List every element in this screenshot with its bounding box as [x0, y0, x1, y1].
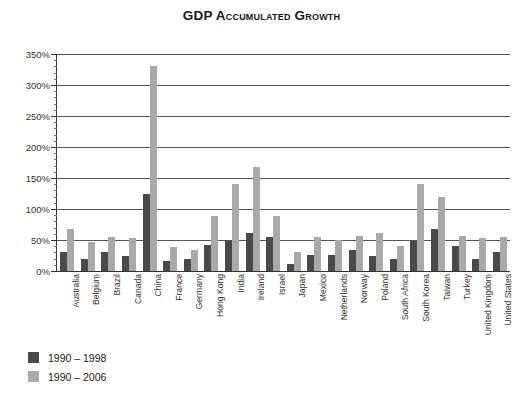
y-axis-major-tick: [51, 271, 57, 272]
y-axis-tick-label: 150%: [26, 173, 50, 184]
x-axis-category-label: Canada: [133, 274, 143, 304]
bar: [356, 236, 363, 271]
bar: [287, 264, 294, 271]
gridline: [57, 116, 510, 117]
bar: [328, 255, 335, 271]
y-axis-minor-tick: [54, 141, 57, 142]
bar: [184, 259, 191, 271]
bar: [307, 255, 314, 271]
bar: [67, 229, 74, 271]
x-axis-category-labels: AustraliaBelgiumBrazilCanadaChinaFranceG…: [57, 274, 510, 344]
x-axis-category-label: Brazil: [112, 274, 122, 296]
x-axis-category-label: United States: [503, 274, 513, 326]
bar: [101, 252, 108, 271]
bar: [129, 238, 136, 271]
legend-item: 1990 – 2006: [28, 367, 106, 386]
bar: [204, 245, 211, 271]
y-axis-minor-tick: [54, 215, 57, 216]
y-axis-major-tick: [51, 178, 57, 179]
bar: [493, 252, 500, 271]
x-axis-category-label: South Africa: [400, 274, 410, 320]
legend-item: 1990 – 1998: [28, 348, 106, 367]
bar: [431, 229, 438, 271]
y-axis-minor-tick: [54, 259, 57, 260]
chart-figure: GDP Accumulated Growth 0%50%100%150%200%…: [0, 0, 523, 406]
y-axis-minor-tick: [54, 122, 57, 123]
bar: [232, 184, 239, 271]
y-axis-minor-tick: [54, 234, 57, 235]
bar: [335, 240, 342, 271]
y-axis-minor-tick: [54, 104, 57, 105]
y-axis-tick-label: 350%: [26, 49, 50, 60]
bar: [143, 194, 150, 272]
bar: [314, 237, 321, 271]
y-axis-minor-tick: [54, 197, 57, 198]
x-axis-line: [56, 271, 510, 272]
bar: [163, 261, 170, 271]
bar: [349, 250, 356, 271]
bar: [88, 242, 95, 271]
gridline: [57, 54, 510, 55]
y-axis-major-tick: [51, 147, 57, 148]
y-axis-minor-tick: [54, 252, 57, 253]
x-axis-category-label: Australia: [71, 274, 81, 307]
bar: [376, 233, 383, 271]
y-axis-minor-tick: [54, 265, 57, 266]
bar: [472, 259, 479, 271]
x-axis-category-label: Turkey: [462, 274, 472, 300]
x-axis-category-label: Israel: [277, 274, 287, 295]
y-axis-minor-tick: [54, 97, 57, 98]
legend-swatch: [28, 352, 39, 363]
gridline: [57, 178, 510, 179]
bar: [266, 237, 273, 271]
bar: [273, 216, 280, 271]
x-axis-category-label: Mexico: [318, 274, 328, 301]
y-axis-tick-label: 300%: [26, 80, 50, 91]
y-axis-minor-tick: [54, 190, 57, 191]
y-axis-minor-tick: [54, 110, 57, 111]
y-axis-major-tick: [51, 116, 57, 117]
gridline: [57, 147, 510, 148]
x-axis-category-label: South Korea: [421, 274, 431, 322]
x-axis-category-label: Belgium: [91, 274, 101, 305]
y-axis-major-tick: [51, 54, 57, 55]
bar: [253, 167, 260, 271]
bar: [225, 241, 232, 271]
x-axis-category-label: India: [236, 274, 246, 293]
bar: [369, 256, 376, 271]
bar: [397, 246, 404, 271]
y-axis-tick-label: 0%: [36, 266, 50, 277]
bar: [170, 247, 177, 271]
x-axis-category-label: Hong Kong: [215, 274, 225, 317]
bar: [122, 256, 129, 271]
legend-swatch: [28, 371, 39, 382]
y-axis-minor-tick: [54, 221, 57, 222]
bar: [108, 237, 115, 271]
y-axis-tick-label: 250%: [26, 111, 50, 122]
x-axis-category-label: Ireland: [256, 274, 266, 300]
y-axis-tick-labels: 0%50%100%150%200%250%300%350%: [0, 54, 50, 274]
x-axis-category-label: Poland: [380, 274, 390, 301]
y-axis-minor-tick: [54, 128, 57, 129]
y-axis-minor-tick: [54, 246, 57, 247]
y-axis-minor-tick: [54, 166, 57, 167]
y-axis-tick-label: 100%: [26, 204, 50, 215]
y-axis-minor-tick: [54, 159, 57, 160]
y-axis-minor-tick: [54, 79, 57, 80]
x-axis-category-label: Germany: [194, 274, 204, 309]
bar: [452, 246, 459, 271]
bar: [191, 250, 198, 271]
y-axis-minor-tick: [54, 60, 57, 61]
gridline: [57, 85, 510, 86]
x-axis-category-label: Netherlands: [339, 274, 349, 320]
x-axis-category-label: China: [153, 274, 163, 296]
bar: [459, 236, 466, 271]
y-axis-minor-tick: [54, 153, 57, 154]
y-axis-major-tick: [51, 240, 57, 241]
bar: [246, 233, 253, 271]
plot-area: [57, 54, 510, 271]
bar: [211, 216, 218, 271]
bar: [294, 252, 301, 271]
y-axis-minor-tick: [54, 184, 57, 185]
legend-label: 1990 – 2006: [48, 371, 106, 383]
